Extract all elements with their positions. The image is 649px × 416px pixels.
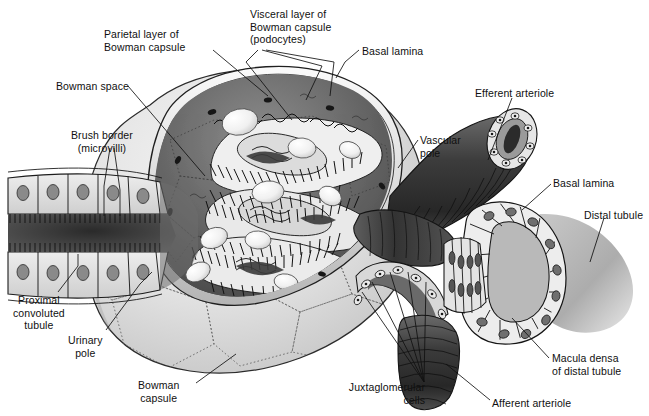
- label-efferent-arteriole: Efferent arteriole: [475, 87, 554, 100]
- label-bowman-capsule: Bowman capsule: [138, 379, 179, 404]
- label-brush-border: Brush border (microvilli): [71, 129, 133, 154]
- label-macula-densa: Macula densa of distal tubule: [552, 352, 621, 377]
- label-vascular-pole: Vascular pole: [420, 134, 461, 159]
- label-parietal-layer: Parietal layer of Bowman capsule: [104, 28, 185, 53]
- label-distal-tubule: Distal tubule: [584, 209, 643, 222]
- label-visceral-layer: Visceral layer of Bowman capsule (podocy…: [250, 8, 331, 46]
- distal-tubule-vessel: [444, 202, 633, 344]
- label-juxtaglomerular-cells: Juxtaglomerular cells: [343, 381, 425, 406]
- macula-densa-cells: [444, 237, 486, 314]
- proximal-tubule: [8, 168, 198, 304]
- label-basal-lamina-right: Basal lamina: [553, 177, 614, 190]
- label-afferent-arteriole: Afferent arteriole: [492, 397, 571, 410]
- label-proximal-convoluted-tubule: Proximal convoluted tubule: [13, 294, 65, 332]
- label-bowman-space: Bowman space: [56, 80, 129, 93]
- label-basal-lamina-top: Basal lamina: [362, 45, 423, 58]
- label-urinary-pole: Urinary pole: [68, 334, 103, 359]
- renal-corpuscle-figure: Parietal layer of Bowman capsule Viscera…: [0, 0, 649, 416]
